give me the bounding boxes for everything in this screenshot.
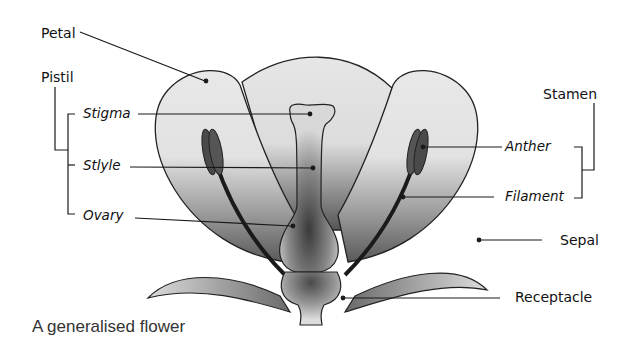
label-style: Stlyle: [83, 159, 121, 173]
label-sepal: Sepal: [560, 233, 599, 247]
label-filament: Filament: [505, 190, 564, 204]
flower-diagram: Petal Pistil Stigma Stlyle Ovary Stamen …: [0, 0, 635, 353]
label-anther: Anther: [505, 140, 551, 154]
receptacle-shape: [281, 272, 340, 325]
diagram-caption: A generalised flower: [32, 318, 185, 335]
label-ovary: Ovary: [83, 209, 123, 223]
label-stamen: Stamen: [543, 87, 597, 101]
right-sepal: [345, 273, 487, 312]
label-stigma: Stigma: [83, 107, 131, 121]
label-pistil: Pistil: [41, 70, 74, 84]
label-petal: Petal: [41, 26, 76, 40]
label-receptacle: Receptacle: [515, 290, 592, 304]
left-sepal: [148, 278, 290, 313]
